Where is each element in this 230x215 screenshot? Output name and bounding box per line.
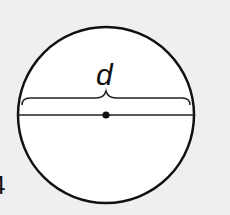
diameter-label: d (96, 60, 113, 90)
circle-diagram (0, 0, 230, 215)
problem-number: 4 (0, 172, 5, 198)
center-point (102, 111, 109, 118)
